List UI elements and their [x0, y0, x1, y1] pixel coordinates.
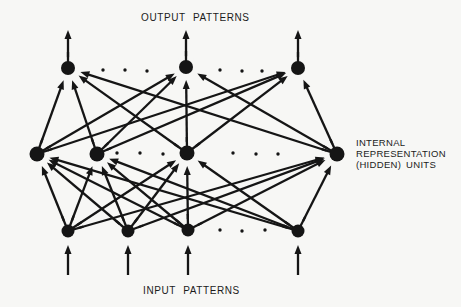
- network-figure: OUTPUT PATTERNS INTERNAL REPRESENTATION …: [0, 0, 461, 307]
- ellipsis-dot: [240, 229, 243, 232]
- ellipsis-dot: [123, 68, 126, 71]
- input-to-hidden-connection: [128, 161, 318, 231]
- ellipsis-dot: [218, 68, 221, 71]
- output-unit-node: [179, 60, 193, 74]
- ellipsis-dot: [115, 151, 118, 154]
- ellipsis-dot: [138, 151, 141, 154]
- connection-arrowhead: [303, 80, 310, 90]
- hidden-to-output-connection: [37, 77, 169, 154]
- output-patterns-label: OUTPUT PATTERNS: [141, 12, 250, 23]
- input-unit-node: [182, 224, 195, 237]
- input-unit-node: [62, 225, 75, 238]
- connection-arrowhead: [183, 80, 190, 89]
- connection-arrowhead: [197, 73, 207, 81]
- ellipsis-dot: [263, 228, 266, 231]
- connection-arrowhead: [185, 245, 192, 254]
- ellipsis-dot: [161, 152, 164, 155]
- ellipsis-dot: [260, 69, 263, 72]
- input-unit-node: [122, 225, 135, 238]
- ellipsis-dot: [276, 152, 279, 155]
- ellipsis-dot: [254, 152, 257, 155]
- connection-arrowhead: [65, 245, 72, 254]
- hidden-unit-node: [330, 147, 345, 162]
- hidden-unit-node: [180, 146, 195, 161]
- connection-arrowhead: [184, 166, 191, 175]
- connection-arrowhead: [57, 80, 64, 90]
- connection-arrowhead: [125, 245, 132, 254]
- connection-arrowhead: [65, 30, 72, 39]
- output-unit-node: [291, 61, 305, 75]
- connection-arrowhead: [183, 30, 190, 39]
- output-unit-node: [61, 61, 75, 75]
- ellipsis-dot: [231, 151, 234, 154]
- hidden-units-label: INTERNAL REPRESENTATION (HIDDEN) UNITS: [356, 137, 446, 170]
- hidden-unit-node: [30, 147, 45, 162]
- connection-arrowhead: [324, 166, 331, 176]
- connection-arrowhead: [295, 30, 302, 39]
- ellipsis-dot: [240, 69, 243, 72]
- hidden-to-output-connection: [187, 80, 282, 153]
- connection-arrowhead: [295, 245, 302, 254]
- ellipsis-dot: [145, 69, 148, 72]
- connection-arrowhead: [72, 80, 79, 90]
- ellipsis-dot: [101, 68, 104, 71]
- connection-arrowhead: [316, 160, 326, 167]
- connection-arrowhead: [42, 166, 49, 176]
- input-patterns-label: INPUT PATTERNS: [143, 285, 240, 296]
- input-unit-node: [292, 225, 305, 238]
- ellipsis-dot: [218, 228, 221, 231]
- hidden-unit-node: [90, 147, 105, 162]
